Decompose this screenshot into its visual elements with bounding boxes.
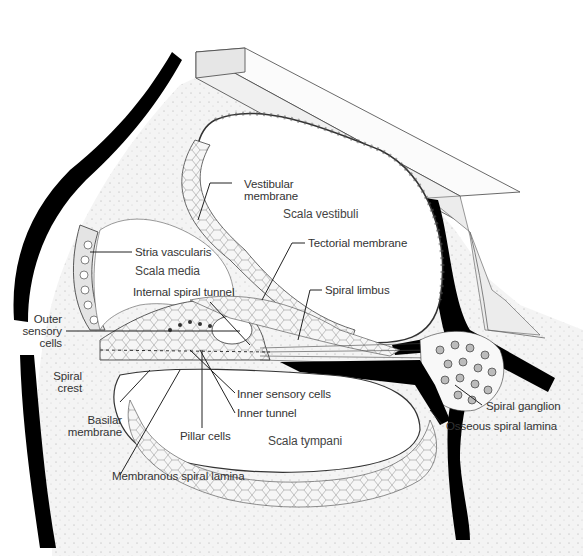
label-spiral-limbus: Spiral limbus <box>325 284 390 296</box>
label-osseous-spiral-lamina: Osseous spiral lamina <box>446 420 557 432</box>
label-outer-sensory-cells: Outersensorycells <box>6 313 62 349</box>
label-inner-tunnel: Inner tunnel <box>237 407 297 419</box>
label-inner-sensory-cells: Inner sensory cells <box>237 388 331 400</box>
label-vestibular-membrane: Vestibularmembrane <box>244 178 298 202</box>
label-tectorial-membrane: Tectorial membrane <box>308 237 407 249</box>
label-spiral-ganglion: Spiral ganglion <box>486 400 561 412</box>
label-membranous-spiral-lamina: Membranous spiral lamina <box>112 470 244 482</box>
label-stria-vascularis: Stria vascularis <box>135 246 211 258</box>
label-scala-vestibuli: Scala vestibuli <box>283 208 358 220</box>
label-spiral-crest: Spiralcrest <box>40 370 82 394</box>
label-basilar-membrane: Basilarmembrane <box>60 414 122 438</box>
label-internal-spiral-tunnel: Internal spiral tunnel <box>133 286 234 298</box>
label-scala-tympani: Scala tympani <box>268 435 342 447</box>
cochlea-illustration <box>0 0 583 556</box>
label-pillar-cells: Pillar cells <box>180 430 231 442</box>
label-scala-media: Scala media <box>135 265 200 277</box>
